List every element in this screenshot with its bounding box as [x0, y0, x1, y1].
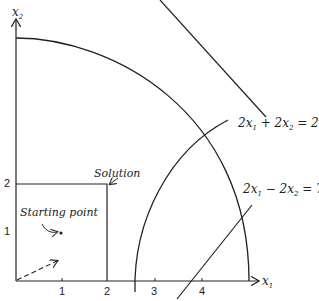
constraint-line-sum	[160, 0, 266, 117]
x-tick-3: 3	[151, 286, 157, 297]
starting-point-arrow	[42, 224, 57, 232]
x-tick-2: 2	[104, 286, 110, 297]
diagram-canvas	[0, 0, 319, 301]
direction-dashed-arrow	[17, 261, 57, 280]
constraint-arc-inner	[135, 120, 228, 292]
starting-point-dot	[59, 231, 62, 234]
y-tick-2: 2	[4, 178, 10, 189]
x-tick-1: 1	[59, 286, 65, 297]
constraint-diff-label: 2x1 − 2x2 = 7	[243, 183, 319, 198]
constraint-line-diff	[177, 205, 252, 299]
y-tick-1: 1	[4, 226, 10, 237]
starting-point-label: Starting point	[20, 207, 98, 218]
x-axis-label: x1	[262, 275, 273, 290]
y-axis-label: x2	[12, 6, 23, 21]
constraint-sum-label: 2x1 + 2x2 = 27	[238, 117, 319, 132]
constraint-arc-outer	[16, 38, 249, 281]
solution-label: Solution	[94, 168, 140, 179]
x-tick-4: 4	[199, 286, 205, 297]
